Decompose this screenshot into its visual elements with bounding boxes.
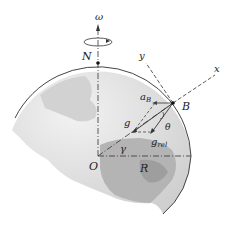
origin-label: O [89, 160, 98, 173]
y-axis-label: y [138, 50, 145, 61]
x-axis-label: x [214, 63, 220, 74]
axis-arrow-icon [96, 24, 100, 31]
x-axis-line [173, 75, 215, 103]
omega-label: ω [95, 11, 103, 22]
north-label: N [81, 50, 92, 63]
point-B [171, 101, 175, 105]
north-pole-point [96, 61, 100, 65]
radius-label: R [139, 162, 148, 175]
earth-diagram: ω N y x aB B g θ grel γ O R [0, 0, 235, 229]
point-B-label: B [181, 100, 190, 113]
gamma-label: γ [120, 143, 126, 154]
theta-label: θ [165, 122, 171, 132]
g-label: g [124, 117, 130, 128]
